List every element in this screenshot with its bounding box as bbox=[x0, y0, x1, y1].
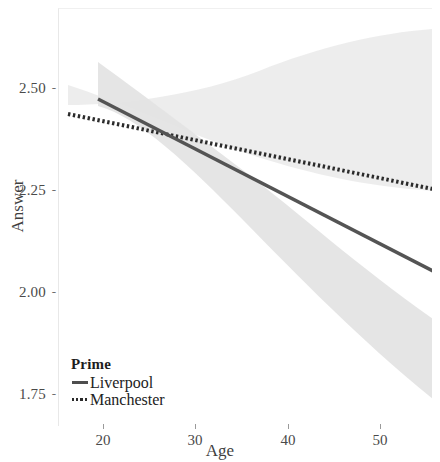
y-axis-title: Answer bbox=[8, 146, 28, 266]
y-tick-label-175: 1.75 bbox=[0, 386, 46, 403]
y-tick-mark-225: - bbox=[52, 182, 56, 198]
x-axis-title: Age bbox=[0, 441, 440, 461]
x-tick-mark-50 bbox=[380, 424, 381, 429]
legend-item-manchester[interactable]: Manchester bbox=[71, 391, 241, 408]
x-tick-mark-40 bbox=[288, 424, 289, 429]
legend-key-solid-line-icon bbox=[71, 374, 90, 391]
legend-title: Prime bbox=[71, 356, 241, 373]
legend-label-liverpool: Liverpool bbox=[90, 374, 153, 391]
x-tick-mark-20 bbox=[103, 424, 104, 429]
chart-container: Prime Liverpool Manchester 2.50 - 2.25 -… bbox=[0, 0, 440, 462]
y-tick-mark-175: - bbox=[52, 386, 56, 402]
legend-item-liverpool[interactable]: Liverpool bbox=[71, 374, 241, 391]
legend-label-manchester: Manchester bbox=[90, 391, 165, 408]
x-tick-mark-30 bbox=[195, 424, 196, 429]
legend: Prime Liverpool Manchester bbox=[71, 356, 241, 408]
y-tick-mark-200: - bbox=[52, 284, 56, 300]
y-tick-label-250: 2.50 bbox=[0, 80, 46, 97]
y-tick-label-200: 2.00 bbox=[0, 284, 46, 301]
legend-key-dotted-line-icon bbox=[71, 391, 90, 408]
plot-panel: Prime Liverpool Manchester bbox=[58, 8, 432, 426]
y-tick-mark-250: - bbox=[52, 80, 56, 96]
